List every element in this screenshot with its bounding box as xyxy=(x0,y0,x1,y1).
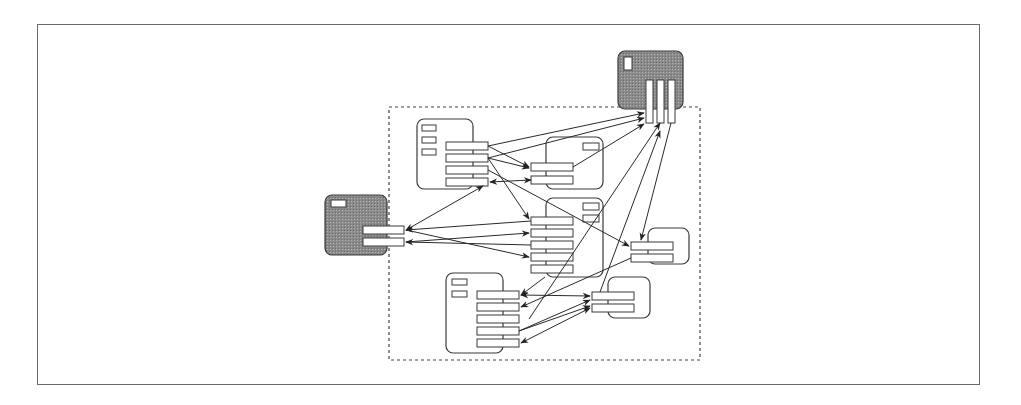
architecture-diagram xyxy=(0,0,1021,405)
node-port xyxy=(446,154,488,162)
node-top-shaded xyxy=(618,51,683,123)
connection-edge xyxy=(406,221,531,230)
node-port xyxy=(631,254,673,262)
node-node-d xyxy=(631,228,689,264)
node-port xyxy=(531,253,573,261)
node-label-tag xyxy=(583,203,599,210)
nodes-layer xyxy=(325,51,689,353)
node-node-c xyxy=(531,198,603,277)
node-port xyxy=(477,291,519,299)
node-node-b xyxy=(531,137,603,189)
node-label-tag xyxy=(583,143,599,150)
node-port xyxy=(531,217,573,225)
node-port xyxy=(477,303,519,311)
node-port xyxy=(531,163,573,171)
node-port xyxy=(531,241,573,249)
node-port xyxy=(592,292,634,300)
connection-edge xyxy=(600,131,660,292)
node-label-tag xyxy=(422,137,436,143)
node-port xyxy=(363,226,404,234)
connection-edge xyxy=(406,186,483,230)
node-port xyxy=(631,242,673,250)
node-node-a xyxy=(417,119,488,189)
node-label-tag xyxy=(422,149,436,155)
node-port xyxy=(477,327,519,335)
node-port xyxy=(477,339,519,347)
node-label-tag xyxy=(452,291,467,297)
node-port xyxy=(531,265,573,273)
node-port xyxy=(477,315,519,323)
node-port xyxy=(646,80,653,123)
node-port xyxy=(531,176,573,184)
node-port xyxy=(446,142,488,150)
node-left-shaded xyxy=(325,195,404,255)
node-node-e xyxy=(592,277,650,318)
node-node-f xyxy=(446,273,519,353)
node-label-tag xyxy=(331,200,346,207)
node-port xyxy=(363,238,404,246)
node-port xyxy=(657,80,664,123)
connection-edge xyxy=(521,295,590,296)
node-label-tag xyxy=(422,125,436,131)
node-label-tag xyxy=(624,57,632,70)
node-port xyxy=(446,178,488,186)
node-port xyxy=(668,80,675,123)
connection-edge xyxy=(521,277,545,295)
node-port xyxy=(592,304,634,312)
node-port xyxy=(446,166,488,174)
node-port xyxy=(531,229,573,237)
connection-edge xyxy=(406,242,531,245)
node-label-tag xyxy=(452,279,467,285)
